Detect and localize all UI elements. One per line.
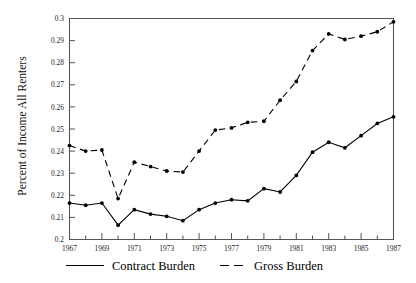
series-marker [278, 190, 282, 194]
legend-label-contract-burden: Contract Burden [112, 259, 196, 273]
series-marker [246, 120, 250, 124]
y-tick-label: 0.29 [51, 36, 64, 45]
series-marker [181, 219, 185, 223]
x-axis-tick-marks [70, 233, 394, 240]
series-marker [327, 140, 331, 144]
series-marker [68, 144, 72, 148]
series-marker [213, 201, 217, 205]
y-tick-label: 0.2 [55, 235, 65, 244]
y-tick-label: 0.23 [51, 169, 64, 178]
series-marker [84, 203, 88, 207]
y-tick-label: 0.27 [51, 80, 64, 89]
data-series-gross-burden [68, 20, 396, 201]
series-line [70, 22, 394, 199]
x-tick-label: 1977 [224, 244, 239, 253]
series-marker [197, 149, 201, 153]
y-tick-label: 0.22 [51, 191, 64, 200]
series-marker [375, 122, 379, 126]
y-tick-label: 0.21 [51, 213, 64, 222]
chart-figure: Percent of Income All Renters 0.30.290.2… [0, 0, 416, 283]
y-axis-tick-labels: 0.30.290.280.270.260.250.240.230.220.210… [51, 14, 64, 244]
series-marker [116, 223, 120, 227]
series-marker [262, 119, 266, 123]
series-marker [132, 160, 136, 164]
legend-label-gross-burden: Gross Burden [254, 259, 324, 273]
x-tick-label: 1987 [386, 244, 401, 253]
series-marker [392, 20, 396, 24]
series-line [70, 117, 394, 225]
series-marker [375, 30, 379, 34]
series-marker [343, 146, 347, 150]
series-marker [246, 199, 250, 203]
series-marker [343, 38, 347, 42]
series-marker [392, 115, 396, 119]
series-marker [165, 214, 169, 218]
x-tick-label: 1983 [321, 244, 336, 253]
y-axis-title: Percent of Income All Renters [16, 56, 28, 196]
x-tick-label: 1969 [95, 244, 110, 253]
x-tick-label: 1981 [289, 244, 304, 253]
series-marker [116, 197, 120, 201]
series-marker [311, 150, 315, 154]
data-series-contract-burden [68, 115, 396, 227]
series-marker [197, 208, 201, 212]
series-marker [327, 32, 331, 36]
x-tick-label: 1985 [354, 244, 369, 253]
x-tick-label: 1967 [62, 244, 77, 253]
series-marker [262, 187, 266, 191]
series-marker [165, 169, 169, 173]
x-tick-label: 1973 [159, 244, 174, 253]
y-tick-label: 0.25 [51, 125, 64, 134]
y-axis-tick-marks [70, 19, 76, 240]
series-marker [359, 34, 363, 38]
series-marker [294, 174, 298, 178]
data-series-layer [68, 20, 396, 227]
series-marker [68, 201, 72, 205]
y-tick-label: 0.24 [51, 147, 64, 156]
y-tick-label: 0.26 [51, 103, 64, 112]
series-marker [84, 149, 88, 153]
series-marker [213, 128, 217, 132]
x-tick-label: 1971 [127, 244, 142, 253]
series-marker [278, 98, 282, 102]
series-marker [294, 80, 298, 84]
series-marker [149, 212, 153, 216]
series-marker [311, 49, 315, 53]
series-marker [359, 134, 363, 138]
series-marker [100, 201, 104, 205]
series-marker [132, 208, 136, 212]
series-marker [100, 148, 104, 152]
x-axis-tick-labels: 1967196919711973197519771979198119831985… [62, 244, 401, 253]
line-chart: Percent of Income All Renters 0.30.290.2… [0, 0, 416, 283]
y-tick-label: 0.28 [51, 58, 64, 67]
x-tick-label: 1975 [192, 244, 207, 253]
x-tick-label: 1979 [257, 244, 272, 253]
y-tick-label: 0.3 [55, 14, 65, 23]
series-marker [230, 198, 234, 202]
series-marker [181, 170, 185, 174]
chart-legend: Contract Burden Gross Burden [66, 259, 324, 273]
series-marker [230, 126, 234, 130]
series-marker [149, 165, 153, 169]
